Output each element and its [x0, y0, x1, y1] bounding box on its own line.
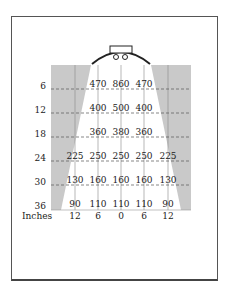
- cell-value: 130: [153, 175, 183, 185]
- cell-value: 225: [153, 151, 183, 161]
- row-label: 30: [28, 177, 46, 187]
- cell-value: 90: [153, 199, 183, 209]
- cell-value: 360: [129, 127, 159, 137]
- cell-value: 470: [129, 79, 159, 89]
- row-label: 12: [28, 105, 46, 115]
- lamp-icon: [92, 46, 150, 64]
- cell-value: 400: [129, 103, 159, 113]
- x-axis-unit: Inches: [22, 211, 52, 221]
- diagram-graphic: [0, 0, 234, 296]
- row-label: 6: [28, 81, 46, 91]
- row-label: 24: [28, 153, 46, 163]
- row-label: 36: [28, 201, 46, 211]
- x-axis-label: 12: [153, 211, 183, 221]
- row-label: 18: [28, 129, 46, 139]
